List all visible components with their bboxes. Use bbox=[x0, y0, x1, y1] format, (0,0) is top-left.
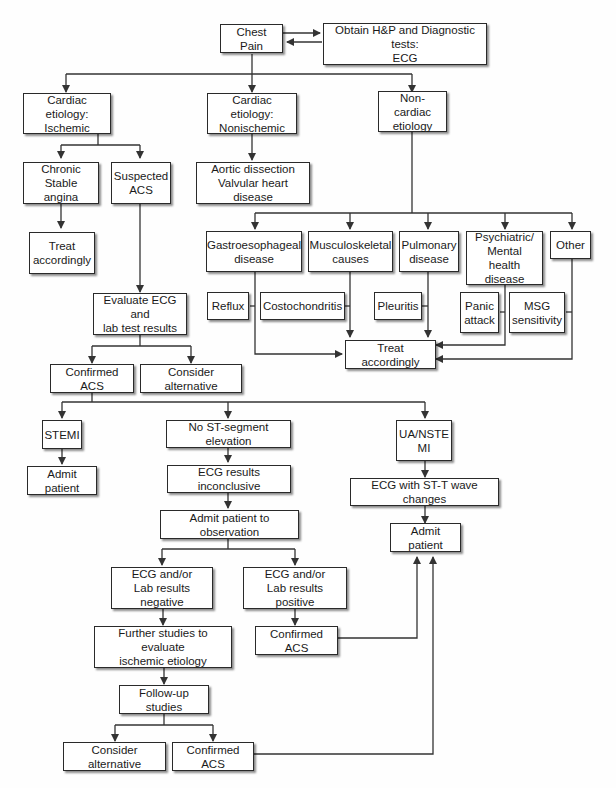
node-cardiac-ischemic: Cardiac etiology: Ischemic bbox=[23, 93, 111, 134]
node-costochondritis: Costochondritis bbox=[260, 292, 345, 320]
node-chest-pain: Chest Pain bbox=[220, 24, 283, 53]
node-panic-attack: Panic attack bbox=[460, 292, 499, 333]
node-admit-patient-nste: Admit patient bbox=[390, 523, 461, 552]
node-ecg-inconclusive: ECG results inconclusive bbox=[167, 465, 291, 493]
node-consider-alternative-final: Consider alternative bbox=[63, 742, 166, 771]
node-musculoskeletal: Musculoskeletal causes bbox=[308, 231, 393, 272]
node-treat-accordingly-chronic: Treat accordingly bbox=[29, 232, 95, 274]
node-consider-alternative: Consider alternative bbox=[140, 364, 242, 393]
node-admit-patient-stemi: Admit patient bbox=[27, 466, 97, 495]
chest-pain-flowchart: Chest Pain Obtain H&P and Diagnostic tes… bbox=[0, 0, 616, 788]
node-other: Other bbox=[550, 231, 591, 259]
node-reflux: Reflux bbox=[207, 292, 249, 320]
node-msg-sensitivity: MSG sensitivity bbox=[509, 292, 565, 333]
node-confirmed-acs-final: Confirmed ACS bbox=[172, 742, 254, 771]
node-admit-observation: Admit patient to observation bbox=[160, 510, 299, 539]
node-aortic-valvular: Aortic dissection Valvular heart disease bbox=[196, 162, 310, 204]
node-pulmonary: Pulmonary disease bbox=[399, 231, 459, 272]
node-psychiatric: Psychiatric/ Mental health disease bbox=[466, 231, 543, 285]
node-cardiac-nonischemic: Cardiac etiology: Nonischemic bbox=[207, 93, 297, 134]
node-pleuritis: Pleuritis bbox=[374, 292, 422, 320]
node-chronic-stable-angina: Chronic Stable angina bbox=[23, 162, 99, 204]
node-ecg-lab-negative: ECG and/or Lab results negative bbox=[111, 567, 213, 609]
node-further-studies: Further studies to evaluate ischemic eti… bbox=[94, 626, 232, 668]
node-treat-accordingly-noncardiac: Treat accordingly bbox=[345, 340, 436, 369]
node-follow-up-studies: Follow-up studies bbox=[119, 685, 209, 714]
node-confirmed-acs-positive: Confirmed ACS bbox=[255, 626, 338, 655]
node-no-st-elevation: No ST-segment elevation bbox=[166, 420, 291, 448]
node-obtain-hp-diagnostics: Obtain H&P and Diagnostic tests: ECG bbox=[323, 23, 487, 65]
node-confirmed-acs: Confirmed ACS bbox=[50, 364, 134, 393]
node-evaluate-ecg-lab: Evaluate ECG and lab test results bbox=[93, 293, 187, 335]
node-noncardiac: Non-cardiac etiology bbox=[378, 91, 447, 132]
node-ecg-st-t-changes: ECG with ST-T wave changes bbox=[350, 478, 499, 506]
node-suspected-acs: Suspected ACS bbox=[111, 162, 171, 204]
node-stemi: STEMI bbox=[42, 420, 82, 449]
node-ecg-lab-positive: ECG and/or Lab results positive bbox=[243, 567, 347, 609]
node-gastroesophageal: Gastroesophageal disease bbox=[206, 231, 302, 272]
node-ua-nste-mi: UA/NSTE MI bbox=[396, 420, 452, 461]
